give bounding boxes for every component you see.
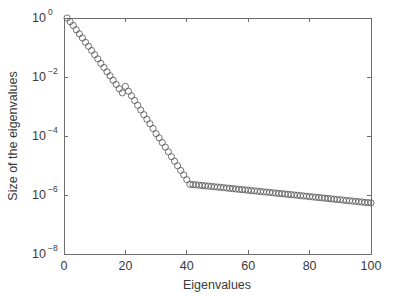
data-point-marker	[73, 27, 79, 33]
data-point-marker	[79, 35, 85, 41]
svg-text:−8: −8	[48, 243, 58, 253]
y-axis-tick-labels: 10010−210−410−610−8	[32, 7, 58, 261]
data-point-marker	[178, 167, 184, 173]
y-tick-label: 10−6	[32, 184, 58, 202]
data-point-marker	[184, 177, 190, 183]
x-tick-label: 40	[180, 259, 194, 273]
data-point-marker	[89, 47, 95, 53]
svg-text:−4: −4	[48, 125, 58, 135]
x-tick-label: 100	[361, 259, 382, 273]
y-tick-label: 10−2	[32, 66, 58, 84]
x-tick-label: 80	[303, 259, 317, 273]
data-point-marker	[141, 112, 147, 118]
svg-text:10: 10	[32, 129, 46, 143]
data-point-marker	[144, 116, 150, 122]
figure-canvas: 020406080100 10010−210−410−610−8 Eigenva…	[0, 0, 394, 296]
data-point-marker	[153, 131, 159, 137]
axes-box	[64, 18, 371, 254]
x-tick-label: 0	[61, 259, 68, 273]
data-point-marker	[110, 77, 116, 83]
svg-text:10: 10	[32, 11, 46, 25]
data-point-marker	[101, 64, 107, 70]
data-point-marker	[125, 88, 131, 94]
y-axis-ticks	[64, 18, 371, 254]
data-point-marker	[119, 90, 125, 96]
data-point-marker	[104, 69, 110, 75]
data-point-marker	[107, 73, 113, 79]
x-axis-tick-labels: 020406080100	[61, 259, 382, 273]
x-axis-title: Eigenvalues	[183, 278, 251, 292]
eigenvalue-spectrum-plot: 020406080100 10010−210−410−610−8 Eigenva…	[0, 0, 394, 296]
data-point-marker	[171, 158, 177, 164]
x-tick-label: 60	[241, 259, 255, 273]
svg-text:0: 0	[48, 7, 53, 17]
x-tick-label: 20	[118, 259, 132, 273]
x-axis-ticks	[64, 18, 371, 254]
data-series-markers	[64, 15, 374, 206]
svg-text:−6: −6	[48, 184, 58, 194]
data-point-marker	[98, 60, 104, 66]
data-point-marker	[92, 52, 98, 58]
svg-text:10: 10	[32, 188, 46, 202]
data-point-marker	[76, 31, 82, 37]
y-tick-label: 10−8	[32, 243, 58, 261]
svg-text:10: 10	[32, 247, 46, 261]
data-point-marker	[138, 107, 144, 113]
svg-text:−2: −2	[48, 66, 58, 76]
data-point-marker	[168, 154, 174, 160]
data-point-marker	[174, 163, 180, 169]
svg-text:10: 10	[32, 70, 46, 84]
y-tick-label: 100	[32, 7, 53, 25]
data-point-marker	[159, 139, 165, 145]
data-point-marker	[82, 39, 88, 45]
data-point-marker	[113, 81, 119, 87]
data-point-marker	[128, 93, 134, 99]
y-axis-title: Size of the eigenvalues	[6, 71, 20, 200]
y-tick-label: 10−4	[32, 125, 58, 143]
data-point-marker	[95, 56, 101, 62]
data-point-marker	[85, 43, 91, 49]
data-point-marker	[116, 86, 122, 92]
data-point-marker	[156, 135, 162, 141]
